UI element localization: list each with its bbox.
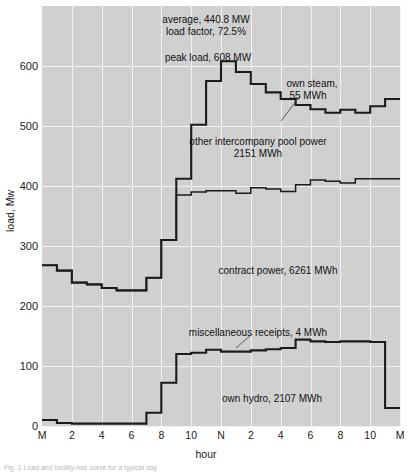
load-curve-figure: 6005004003002001000 load, Mw M246810N246… — [0, 0, 412, 475]
y-axis-tick-label: 500 — [0, 120, 38, 132]
x-axis-tick-label: 6 — [299, 430, 323, 441]
annotation-peak-load: peak load, 608 MW — [2, 52, 412, 64]
figure-caption: Fig. 1 Load and facility-mix curve for a… — [4, 463, 408, 472]
gridline-vertical — [400, 6, 401, 426]
x-axis-tick-label: 8 — [149, 430, 173, 441]
x-axis-tick-label: 2 — [239, 430, 263, 441]
x-axis-tick-label: 2 — [60, 430, 84, 441]
x-axis-tick-label: M — [388, 430, 412, 441]
x-axis-tick-label: 4 — [90, 430, 114, 441]
annotation-own-steam: own steam, — [106, 78, 412, 90]
y-axis-tick-label: 100 — [0, 360, 38, 372]
y-axis-tick-label: 200 — [0, 300, 38, 312]
annotation-own-hydro: own hydro, 2107 MWh — [66, 393, 412, 405]
plot-area — [42, 6, 400, 426]
x-axis-tick-label: N — [209, 430, 233, 441]
x-axis-tick-label: 10 — [179, 430, 203, 441]
x-axis-tick-label: 10 — [358, 430, 382, 441]
y-axis-title: load, Mw — [4, 176, 16, 246]
annotation-own-steam-value: 55 MWh — [102, 90, 412, 102]
annotation-contract-power: contract power, 6261 MWh — [72, 265, 412, 277]
annotation-average-load: average, 440.8 MW — [0, 14, 412, 26]
gridline-horizontal — [42, 426, 400, 427]
annotation-intercompany-pool-power-value: 2151 MWh — [52, 148, 412, 160]
annotation-load-factor: load factor, 72.5% — [0, 26, 412, 38]
x-axis-title: hour — [0, 448, 412, 460]
annotation-intercompany-pool-power: other intercompany pool power — [52, 136, 412, 148]
x-axis-tick-label: 6 — [120, 430, 144, 441]
x-axis-tick-label: M — [30, 430, 54, 441]
leader-line-layer — [42, 6, 400, 426]
x-axis-tick-label: 8 — [328, 430, 352, 441]
x-axis-tick-label: 4 — [269, 430, 293, 441]
annotation-miscellaneous-receipts: miscellaneous receipts, 4 MWh — [52, 327, 412, 339]
